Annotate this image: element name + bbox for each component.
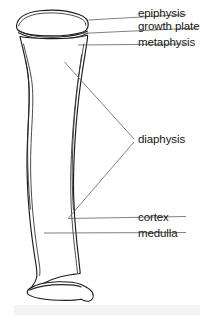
label-cortex: cortex <box>138 211 169 223</box>
label-growth-plate: growth plate <box>138 20 199 32</box>
label-epiphysis: epiphysis <box>138 7 185 19</box>
leader-line-diaphysis-lower <box>69 142 135 218</box>
label-medulla: medulla <box>138 227 178 239</box>
label-diaphysis: diaphysis <box>138 133 185 145</box>
scan-edge-band <box>14 305 200 315</box>
label-metaphysis: metaphysis <box>138 36 195 48</box>
epiphysis-outline <box>16 10 88 36</box>
bone-anatomy-figure: epiphysis growth plate metaphysis diaphy… <box>0 0 212 315</box>
